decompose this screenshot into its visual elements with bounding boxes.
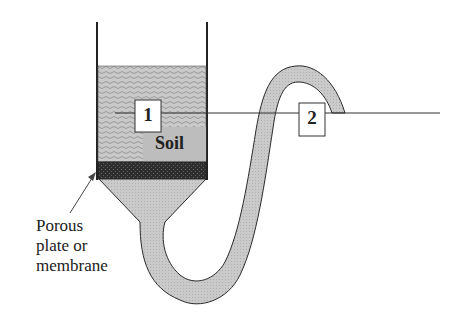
porous-plate xyxy=(98,162,206,179)
point-2-label: 2 xyxy=(299,107,325,129)
plate-label-line-2: plate or xyxy=(36,236,108,256)
point-1-label: 1 xyxy=(135,104,161,126)
plate-arrow xyxy=(70,172,96,213)
soil-label: Soil xyxy=(155,133,184,154)
plate-label-line-1: Porous xyxy=(36,216,108,236)
porous-plate-label: Porous plate or membrane xyxy=(36,216,108,276)
plate-label-line-3: membrane xyxy=(36,256,108,276)
